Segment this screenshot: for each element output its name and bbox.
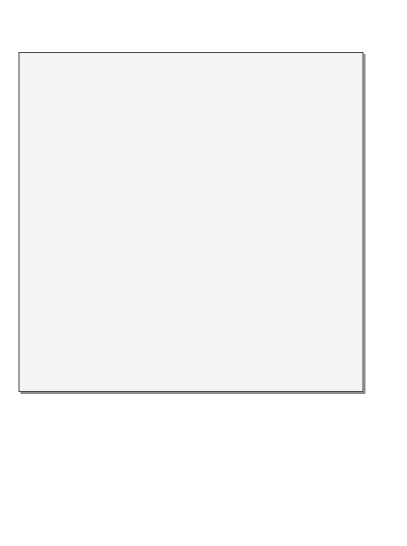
figure-stage [0,0,407,546]
plot-area [18,52,363,392]
plot-canvas [18,52,363,392]
poisson-curves-svg [19,53,362,391]
